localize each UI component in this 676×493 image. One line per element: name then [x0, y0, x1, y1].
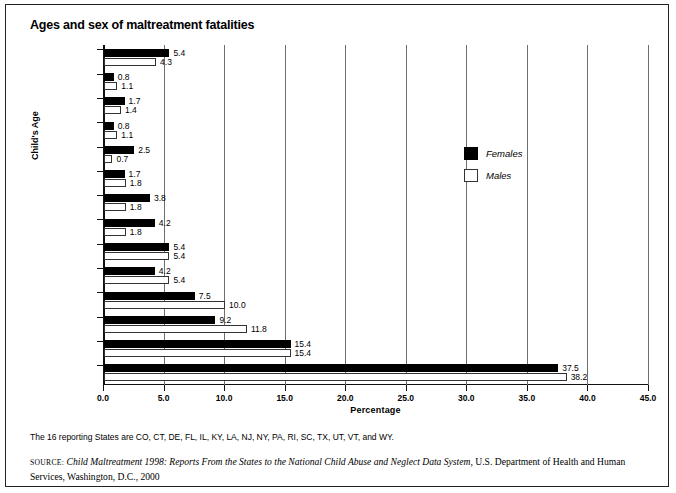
- bar-female: [104, 316, 215, 324]
- y-axis-line: [103, 45, 105, 385]
- bar-value-label: 0.7: [116, 154, 128, 164]
- y-tick: [97, 244, 103, 245]
- bar-female: [104, 49, 169, 57]
- x-tick-label: 15.0: [276, 393, 293, 403]
- gridline: [648, 45, 649, 385]
- legend-swatch-males-icon: [464, 169, 478, 182]
- bar-value-label: 1.8: [130, 178, 142, 188]
- bar-female: [104, 292, 195, 300]
- x-tick-label: 10.0: [216, 393, 233, 403]
- y-tick: [97, 219, 103, 220]
- x-tick-label: 20.0: [337, 393, 354, 403]
- bar-female: [104, 122, 114, 130]
- bar-female: [104, 97, 125, 105]
- bar-value-label: 7.5: [199, 291, 211, 301]
- bar-value-label: 1.4: [125, 105, 137, 115]
- bar-male: [104, 252, 169, 260]
- bar-female: [104, 194, 150, 202]
- legend: Females Males: [464, 147, 522, 191]
- x-tick-label: 40.0: [579, 393, 596, 403]
- bar-value-label: 4.2: [159, 266, 171, 276]
- bar-value-label: 11.8: [251, 324, 267, 334]
- bar-male: [104, 228, 126, 236]
- bar-male: [104, 58, 156, 66]
- bar-female: [104, 170, 125, 178]
- bar-male: [104, 82, 117, 90]
- x-tick-label: 25.0: [397, 393, 414, 403]
- y-tick: [97, 341, 103, 342]
- bar-female: [104, 340, 291, 348]
- bar-value-label: 9.2: [219, 315, 231, 325]
- y-tick: [97, 49, 103, 50]
- bar-value-label: 4.2: [159, 218, 171, 228]
- bar-female: [104, 364, 558, 372]
- y-tick: [97, 122, 103, 123]
- y-tick: [97, 268, 103, 269]
- figure-frame: Ages and sex of maltreatment fatalities …: [5, 4, 669, 487]
- legend-label-males: Males: [486, 170, 511, 181]
- x-axis-label: Percentage: [103, 405, 648, 415]
- y-tick: [97, 292, 103, 293]
- legend-label-females: Females: [486, 148, 522, 159]
- y-tick: [97, 98, 103, 99]
- source-title: Child Maltreatment 1998: Reports From th…: [67, 456, 471, 467]
- bar-value-label: 2.5: [138, 145, 150, 155]
- bar-male: [104, 373, 567, 381]
- bar-value-label: 38.2: [571, 372, 588, 382]
- bar-value-label: 5.4: [173, 48, 185, 58]
- gridline: [164, 45, 165, 385]
- x-tick: [224, 385, 225, 391]
- bar-male: [104, 276, 169, 284]
- gridline: [345, 45, 346, 385]
- legend-item-females: Females: [464, 147, 522, 160]
- gridline: [527, 45, 528, 385]
- bar-female: [104, 267, 155, 275]
- page-title: Ages and sex of maltreatment fatalities: [30, 18, 254, 32]
- y-tick: [97, 147, 103, 148]
- x-tick: [466, 385, 467, 391]
- bar-female: [104, 243, 169, 251]
- bar-male: [104, 203, 126, 211]
- bar-value-label: 1.8: [130, 227, 142, 237]
- bar-value-label: 10.0: [229, 300, 246, 310]
- y-tick: [97, 195, 103, 196]
- bar-male: [104, 325, 247, 333]
- y-tick: [97, 74, 103, 75]
- x-tick-label: 45.0: [640, 393, 657, 403]
- bar-male: [104, 106, 121, 114]
- plot-area: 5.44.30.81.11.71.40.81.12.50.71.71.83.81…: [103, 45, 648, 385]
- bar-value-label: 5.4: [173, 275, 185, 285]
- bar-value-label: 4.3: [160, 57, 172, 67]
- gridline: [285, 45, 286, 385]
- x-tick-label: 0.0: [97, 393, 109, 403]
- bar-value-label: 15.4: [295, 348, 312, 358]
- source-prefix: Source:: [30, 458, 64, 467]
- source-note: Source: Child Maltreatment 1998: Reports…: [30, 455, 652, 484]
- x-tick: [345, 385, 346, 391]
- y-tick: [97, 365, 103, 366]
- bar-male: [104, 301, 225, 309]
- y-axis-label: Child's Age: [30, 111, 40, 160]
- x-tick: [285, 385, 286, 391]
- bar-female: [104, 146, 134, 154]
- x-tick-label: 30.0: [458, 393, 475, 403]
- x-tick-label: 5.0: [158, 393, 170, 403]
- x-tick: [103, 385, 104, 391]
- bar-female: [104, 219, 155, 227]
- legend-swatch-females-icon: [464, 147, 478, 160]
- legend-item-males: Males: [464, 169, 522, 182]
- bar-value-label: 1.1: [121, 81, 133, 91]
- states-note: The 16 reporting States are CO, CT, DE, …: [30, 432, 394, 442]
- bar-female: [104, 73, 114, 81]
- x-tick: [648, 385, 649, 391]
- bar-value-label: 5.4: [173, 251, 185, 261]
- gridline: [587, 45, 588, 385]
- bar-male: [104, 131, 117, 139]
- bar-male: [104, 179, 126, 187]
- bar-male: [104, 349, 291, 357]
- x-tick: [527, 385, 528, 391]
- bar-value-label: 1.1: [121, 130, 133, 140]
- gridline: [224, 45, 225, 385]
- bar-male: [104, 155, 112, 163]
- bar-value-label: 3.8: [154, 193, 166, 203]
